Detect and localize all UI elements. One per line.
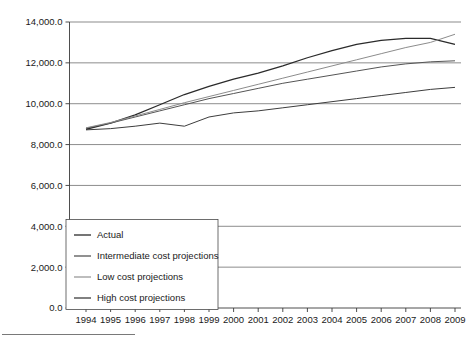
x-tick-label: 2002	[272, 314, 293, 325]
x-tick-label: 2008	[420, 314, 441, 325]
x-tick-label: 2007	[395, 314, 416, 325]
y-tick-label: 12,000.0	[26, 57, 63, 68]
y-tick-label: 4,000.0	[31, 221, 63, 232]
x-tick-label: 1995	[100, 314, 121, 325]
x-tick-label: 2000	[223, 314, 244, 325]
chart-figure: 0.02,000.04,000.06,000.08,000.010,000.01…	[0, 0, 475, 343]
series-line	[86, 34, 455, 128]
series-line	[86, 61, 455, 128]
y-tick-label: 2,000.0	[31, 262, 63, 273]
x-tick-label: 1998	[174, 314, 195, 325]
y-tick-label: 8,000.0	[31, 139, 63, 150]
x-tick-label: 2006	[371, 314, 392, 325]
y-tick-label: 10,000.0	[26, 98, 63, 109]
legend-label: Intermediate cost projections	[97, 250, 219, 261]
x-tick-label: 2001	[248, 314, 269, 325]
line-chart: 0.02,000.04,000.06,000.08,000.010,000.01…	[0, 0, 475, 343]
x-tick-label: 1997	[149, 314, 170, 325]
legend-label: Low cost projections	[97, 271, 183, 282]
x-tick-label: 1994	[75, 314, 96, 325]
series-line	[86, 87, 455, 129]
y-tick-label: 0.0	[49, 302, 62, 313]
x-tick-label: 2005	[346, 314, 367, 325]
data-series-group	[86, 34, 455, 130]
x-tick-label: 1999	[198, 314, 219, 325]
legend-label: Actual	[97, 229, 123, 240]
x-tick-label: 2009	[444, 314, 465, 325]
y-axis-tick-labels: 0.02,000.04,000.06,000.08,000.010,000.01…	[26, 16, 63, 313]
x-tick-label: 2004	[321, 314, 342, 325]
x-tick-label: 1996	[125, 314, 146, 325]
x-axis-tick-labels: 1994199519961997199819992000200120022003…	[75, 314, 465, 325]
x-tick-label: 2003	[297, 314, 318, 325]
y-tick-label: 6,000.0	[31, 180, 63, 191]
y-tick-label: 14,000.0	[26, 16, 63, 27]
legend-label: High cost projections	[97, 292, 185, 303]
